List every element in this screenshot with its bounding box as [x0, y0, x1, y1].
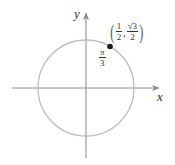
angle-fraction: π 3 — [99, 48, 106, 68]
y-denominator: 2 — [130, 32, 135, 42]
x-axis-label: x — [157, 89, 163, 105]
x-coordinate: 1 2 — [116, 22, 123, 42]
x-numerator: 1 — [116, 22, 123, 32]
unit-circle-diagram: y x π 3 ( 1 2 , √3 2 ) — [0, 0, 175, 165]
point-coordinates-label: ( 1 2 , √3 2 ) — [109, 22, 145, 42]
point-marker — [107, 44, 113, 50]
x-denominator: 2 — [117, 32, 122, 42]
open-paren: ( — [110, 22, 114, 42]
y-coordinate: √3 2 — [127, 22, 138, 42]
y-axis-label: y — [74, 6, 80, 22]
coordinate-comma: , — [123, 27, 126, 42]
diagram-canvas — [0, 0, 175, 165]
close-paren: ) — [139, 22, 143, 42]
angle-label: π 3 — [99, 48, 106, 68]
y-numerator: √3 — [127, 22, 138, 32]
angle-numerator: π — [99, 48, 106, 58]
angle-denominator: 3 — [100, 58, 105, 68]
